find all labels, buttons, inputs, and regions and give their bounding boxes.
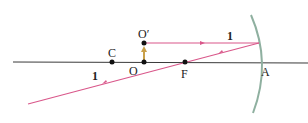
object-arrow-head — [141, 46, 147, 52]
label-f: F — [181, 67, 188, 81]
ray-diagram: C O′ O F A 1 1 — [0, 0, 308, 123]
point-o-prime — [142, 41, 147, 46]
label-o-prime: O′ — [138, 27, 150, 41]
point-o — [142, 60, 147, 65]
label-a: A — [261, 65, 270, 79]
label-ray-1-reflected: 1 — [92, 69, 98, 83]
label-o: O — [129, 64, 138, 78]
incident-ray-arrow — [200, 41, 205, 45]
label-ray-1-incident: 1 — [227, 29, 233, 43]
point-c — [110, 60, 115, 65]
concave-mirror — [251, 15, 262, 113]
point-f — [183, 60, 188, 65]
label-c: C — [108, 46, 116, 60]
principal-axis — [13, 62, 308, 63]
